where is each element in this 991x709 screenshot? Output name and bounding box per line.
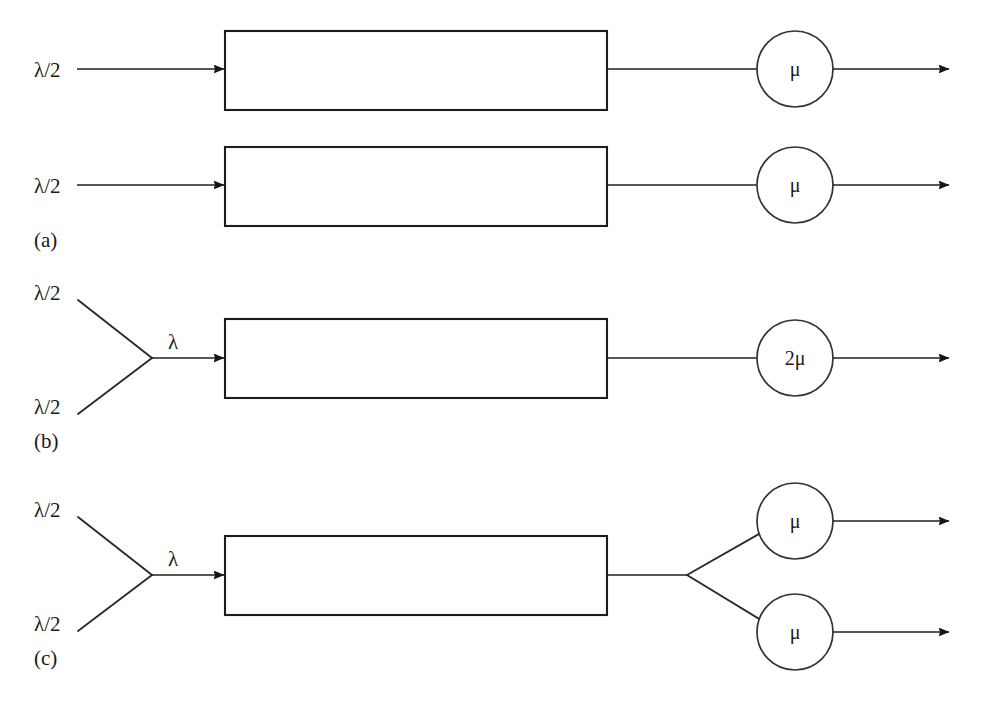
merge-line-b-lower xyxy=(78,358,152,414)
panel-b: λ/2 λ/2 λ 2μ (b) xyxy=(34,281,949,453)
server-label-c2: μ xyxy=(790,621,801,644)
queue-box-c xyxy=(225,536,607,615)
figure-canvas: λ/2 λ/2 μ μ (a) λ/2 λ/2 λ 2μ (b) xyxy=(0,0,991,709)
panel-label-b: (b) xyxy=(34,429,59,453)
split-line-c-lower xyxy=(687,575,766,623)
server-label-a1: μ xyxy=(790,58,801,81)
server-label-a2: μ xyxy=(790,174,801,197)
panel-a: λ/2 λ/2 μ μ (a) xyxy=(34,31,949,252)
panel-a-row-2 xyxy=(77,147,949,226)
arrival-label-a2: λ/2 xyxy=(34,174,61,198)
queue-box-a2 xyxy=(225,147,607,226)
panel-label-c: (c) xyxy=(34,646,57,670)
arrival-label-c1: λ/2 xyxy=(34,498,61,522)
merged-rate-label-c: λ xyxy=(168,547,179,571)
queue-box-a1 xyxy=(225,31,607,110)
merge-line-b-upper xyxy=(78,300,152,358)
queueing-diagram: λ/2 λ/2 μ μ (a) λ/2 λ/2 λ 2μ (b) xyxy=(0,0,991,709)
panel-c: λ/2 λ/2 λ μ μ (c) xyxy=(34,483,949,670)
arrival-label-a1: λ/2 xyxy=(34,58,61,82)
merge-line-c-upper xyxy=(78,517,152,575)
server-label-c1: μ xyxy=(790,510,801,533)
merge-line-c-lower xyxy=(78,575,152,631)
arrival-label-b1: λ/2 xyxy=(34,281,61,305)
panel-label-a: (a) xyxy=(34,228,57,252)
panel-a-row-1 xyxy=(77,31,949,110)
arrival-label-c2: λ/2 xyxy=(34,612,61,636)
split-line-c-upper xyxy=(687,530,766,575)
queue-box-b xyxy=(225,319,607,398)
arrival-label-b2: λ/2 xyxy=(34,395,61,419)
merged-rate-label-b: λ xyxy=(168,330,179,354)
server-label-b: 2μ xyxy=(785,347,806,370)
